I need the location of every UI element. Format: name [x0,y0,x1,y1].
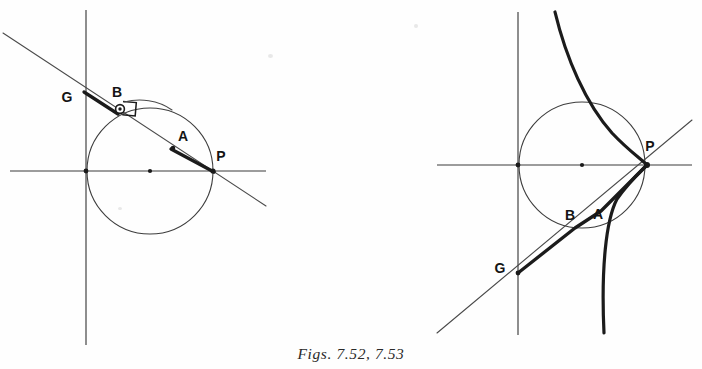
left-point-B-center-dot [118,107,121,110]
right-point-P-dot [644,162,650,168]
right-origin-dot [516,163,521,168]
figure-sheet: G B A P G B A [0,0,702,369]
figure-caption: Figs. 7.52, 7.53 [0,345,702,363]
right-label-B: B [565,207,575,223]
figure-right-group: G B A P [437,12,692,335]
right-point-G-dot [516,271,521,276]
left-point-P-dot [210,168,215,173]
figure-canvas: G B A P G B A [0,0,702,369]
left-center-dot [148,169,152,173]
left-label-P: P [216,148,225,164]
right-bold-segment-GP [518,166,646,273]
left-point-A-dot [171,146,176,151]
left-label-B: B [112,84,122,100]
right-label-A: A [593,206,603,222]
left-origin-dot [84,169,89,174]
right-cubic-curve [555,12,647,333]
figure-left-group: G B A P [3,10,266,345]
left-bold-segment-AP [171,149,214,172]
right-center-dot [580,163,584,167]
left-label-A: A [178,128,188,144]
left-secant-line [3,33,266,206]
left-label-G: G [62,89,73,105]
right-label-G: G [495,260,506,276]
right-label-P: P [645,138,654,154]
